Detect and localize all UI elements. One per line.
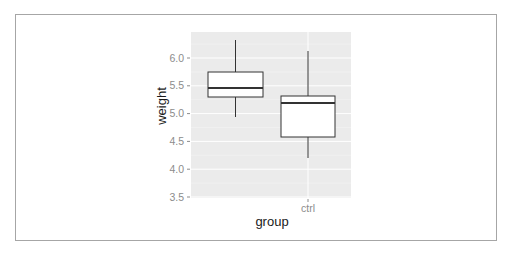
boxplot-chart: 6.0 5.5 5.0 4.5 4.0 3.5 ctrl group weigh… [0, 0, 514, 253]
y-tick-label: 4.5 [169, 135, 184, 147]
y-tick-label: 5.0 [169, 107, 184, 119]
x-axis-title: group [255, 214, 288, 229]
y-tick-label: 3.5 [169, 191, 184, 203]
y-tick-label: 6.0 [169, 52, 184, 64]
box-iqr [208, 72, 263, 97]
y-axis-title: weight [154, 87, 169, 126]
y-tick-label: 5.5 [169, 79, 184, 91]
y-axis-labels: 6.0 5.5 5.0 4.5 4.0 3.5 [169, 52, 184, 203]
y-axis-ticks [187, 58, 190, 197]
y-tick-label: 4.0 [169, 163, 184, 175]
x-tick-label-ctrl: ctrl [301, 202, 315, 214]
